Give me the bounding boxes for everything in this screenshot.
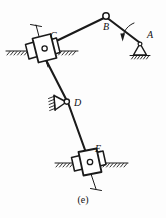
ground-hatching-e-left (56, 164, 73, 168)
rotation-arrow-head-icon (120, 33, 125, 41)
pin-joint-b-icon (103, 13, 109, 19)
link-c-d (45, 58, 68, 102)
link-group (45, 17, 140, 161)
pivot-pin-c-icon (42, 46, 47, 51)
joint-label-b: B (103, 21, 109, 32)
joint-b (103, 13, 109, 19)
support-a (130, 42, 150, 59)
pivot-pin-a-icon (138, 42, 142, 46)
joint-label-c: C (50, 30, 57, 41)
slider-c (6, 25, 78, 68)
pivot-pin-e-icon (87, 159, 92, 164)
figure-container: A B C D E (e) (0, 0, 166, 218)
figure-caption: (e) (77, 194, 88, 206)
ground-hatching-a (132, 56, 150, 59)
joint-label-d: D (73, 97, 82, 108)
joint-label-e: E (94, 143, 101, 154)
joint-label-a: A (146, 29, 154, 40)
kinematic-linkage-diagram: A B C D E (e) (0, 0, 166, 218)
slider-e (55, 149, 128, 191)
pivot-pin-d-icon (64, 99, 69, 104)
